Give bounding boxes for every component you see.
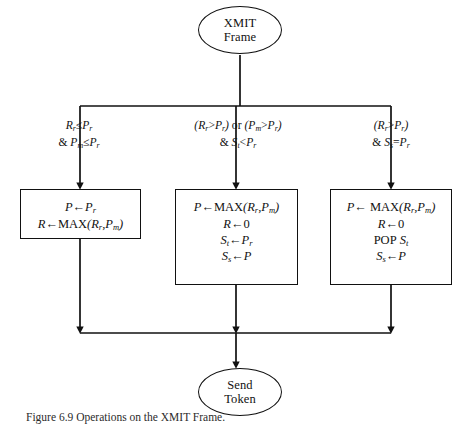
figure-caption: Figure 6.9 Operations on the XMIT Frame. [26,410,456,424]
process-left-line-2: R←MAX(Rr,Pm) [38,216,124,233]
process-middle-line-2: R←0 [223,216,249,232]
condition-left-line2: & Pm≤Pr [14,135,144,152]
process-box-right: P← MAX(Rr,Pm) R←0 POP St Ss←P [330,189,452,285]
end-terminator: Send Token [198,368,282,416]
condition-label-left: Rr≤Pr & Pm≤Pr [14,118,144,151]
condition-left-line1: Rr≤Pr [14,118,144,135]
condition-middle-line1: (Rr>Pr) or (Pm>Pr) [150,118,326,135]
start-terminator-line2: Frame [224,30,256,44]
process-right-line-4: Ss←P [376,248,406,265]
condition-middle-line2: & St<Pr [150,135,326,152]
flowchart-diagram: XMIT Frame Rr≤Pr & Pm≤Pr (Rr>Pr) or (Pm>… [0,0,466,424]
end-terminator-line2: Token [224,392,256,406]
process-middle-line-3: St←Pr [220,232,252,249]
process-middle-line-4: Ss←P [222,248,252,265]
process-box-middle: P←MAX(Rr,Pm) R←0 St←Pr Ss←P [175,189,298,285]
process-right-line-3: POP St [374,232,409,249]
start-terminator: XMIT Frame [198,6,282,54]
end-terminator-line1: Send [227,378,252,392]
condition-right-line1: (Rr>Pr) [322,118,460,135]
process-left-line-1: P←Pr [65,199,96,216]
process-right-line-1: P← MAX(Rr,Pm) [347,199,436,216]
process-middle-line-1: P←MAX(Rr,Pm) [194,199,280,216]
condition-label-right: (Rr>Pr) & Ss=Pr [322,118,460,151]
start-terminator-line1: XMIT [224,16,256,30]
process-box-left: P←Pr R←MAX(Rr,Pm) [20,189,141,239]
process-right-line-2: R←0 [378,216,404,232]
condition-label-middle: (Rr>Pr) or (Pm>Pr) & St<Pr [150,118,326,151]
condition-right-line2: & Ss=Pr [322,135,460,152]
